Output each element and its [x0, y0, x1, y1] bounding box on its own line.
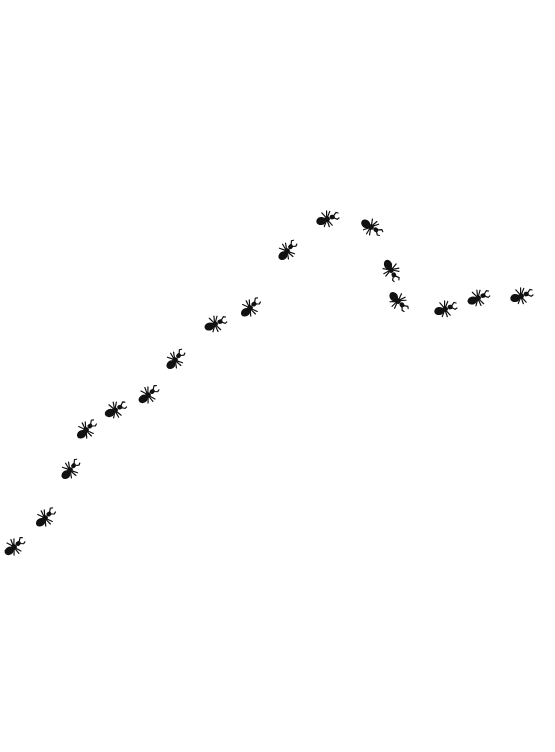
- ant-icon: [271, 235, 304, 267]
- ant-icon: [506, 284, 535, 308]
- ant-icon: [159, 344, 192, 376]
- ant-icon: [54, 454, 87, 486]
- ant-icon: [29, 502, 62, 533]
- ant-icon: [355, 211, 388, 243]
- ant-icon: [312, 207, 341, 231]
- ant-icon: [463, 285, 493, 311]
- ant-icon: [200, 311, 230, 337]
- ant-icon: [430, 297, 459, 321]
- ant-icon: [132, 380, 165, 410]
- ant-icon: [234, 292, 267, 323]
- ant-icon: [0, 532, 30, 562]
- ant-icon: [382, 285, 413, 318]
- ant-icon: [377, 254, 405, 285]
- ant-icon: [70, 414, 103, 445]
- ant-icon: [99, 396, 130, 424]
